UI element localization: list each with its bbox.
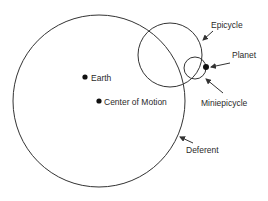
earth-dot bbox=[82, 74, 87, 79]
center-of-motion-label: Center of Motion bbox=[104, 97, 167, 107]
epicycle-label: Epicycle bbox=[211, 20, 243, 30]
miniepicycle-arrow bbox=[206, 79, 223, 93]
miniepicycle-label: Miniepicycle bbox=[201, 98, 248, 108]
deferent-label: Deferent bbox=[186, 145, 219, 155]
earth-label: Earth bbox=[91, 73, 112, 83]
planet-arrow bbox=[211, 63, 230, 67]
deferent-arrow bbox=[180, 137, 193, 143]
epicycle-circle bbox=[138, 23, 202, 87]
epicycle-arrow bbox=[203, 31, 213, 40]
ptolemaic-diagram: Earth Center of Motion Epicycle Planet M… bbox=[0, 0, 268, 201]
center-of-motion-dot bbox=[96, 98, 101, 103]
planet-dot bbox=[203, 64, 209, 70]
planet-label: Planet bbox=[232, 50, 257, 60]
